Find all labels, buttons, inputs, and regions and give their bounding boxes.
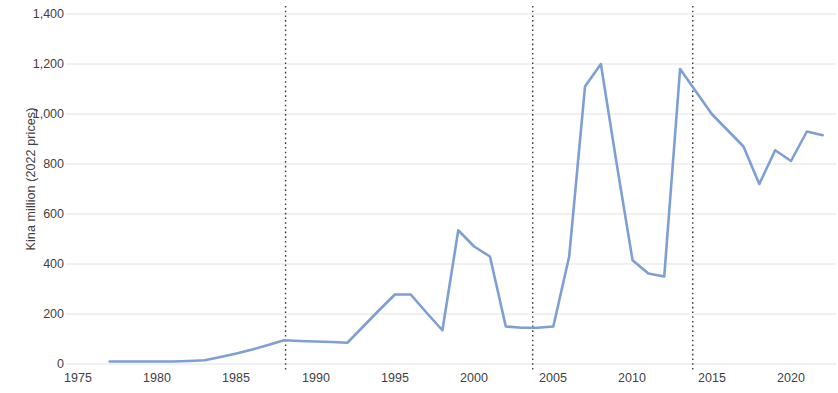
data-series-line (110, 64, 823, 362)
gridlines (66, 14, 836, 364)
vertical-marker-lines (286, 6, 693, 372)
plot-area (0, 0, 838, 393)
chart-svg (0, 0, 838, 393)
line-chart: Kina million (2022 prices) 1,400 1,200 1… (0, 0, 838, 393)
